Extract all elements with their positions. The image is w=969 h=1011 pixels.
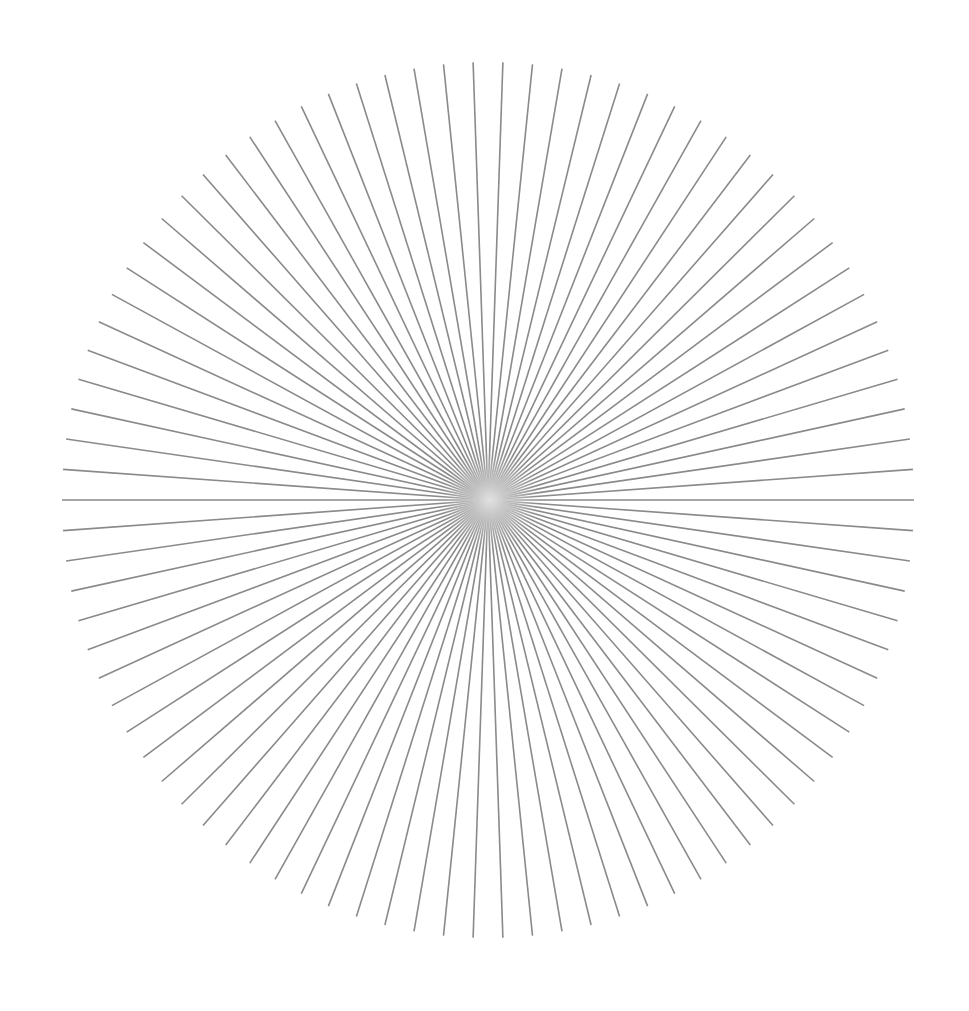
radial-line xyxy=(488,439,910,500)
radial-line xyxy=(112,294,488,500)
radial-line xyxy=(488,75,591,500)
radial-line xyxy=(488,500,833,757)
radial-line xyxy=(488,175,773,501)
radial-line xyxy=(488,500,620,917)
radial-line xyxy=(226,500,488,845)
radial-line xyxy=(356,83,488,500)
radial-line xyxy=(488,500,814,782)
radial-line xyxy=(385,500,488,925)
radial-line xyxy=(226,155,488,500)
radial-line xyxy=(488,243,833,500)
radial-line xyxy=(488,500,913,531)
radial-line xyxy=(328,94,488,500)
radial-line xyxy=(143,500,488,757)
radial-line xyxy=(488,500,750,845)
radial-line xyxy=(488,500,864,706)
radial-line xyxy=(488,219,814,501)
radial-line xyxy=(488,94,648,500)
radial-line xyxy=(488,500,648,906)
radial-line xyxy=(488,500,773,826)
radial-line xyxy=(162,500,488,782)
radial-line xyxy=(488,294,864,500)
radial-line xyxy=(162,219,488,501)
radial-line xyxy=(112,500,488,706)
radial-line xyxy=(63,500,488,531)
radial-line xyxy=(143,243,488,500)
radial-line xyxy=(203,500,488,826)
radial-line xyxy=(66,500,488,561)
radial-line xyxy=(488,500,910,561)
radial-line xyxy=(328,500,488,906)
radial-line xyxy=(63,469,488,500)
radial-line xyxy=(488,155,750,500)
center-glow xyxy=(440,450,540,550)
radial-line xyxy=(385,75,488,500)
radial-line xyxy=(488,469,913,500)
radial-line xyxy=(356,500,488,917)
radial-line xyxy=(488,500,591,925)
radial-line xyxy=(203,175,488,501)
radial-line xyxy=(66,439,488,500)
radial-line xyxy=(488,83,620,500)
